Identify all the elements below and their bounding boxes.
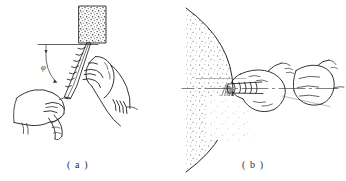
panel-b-caption: ( b ) <box>242 159 264 170</box>
svg-text:φ: φ <box>41 62 46 72</box>
figure-illustration: φ <box>0 0 346 181</box>
grinding-block <box>79 6 106 43</box>
angle-label: φ <box>41 62 46 72</box>
panel-b-group <box>182 8 344 172</box>
panel-a-group: φ <box>14 6 138 140</box>
angle-arc <box>46 51 58 83</box>
panel-a-caption: ( a ) <box>67 159 89 170</box>
rear-fist <box>293 60 344 105</box>
guide-line-lower <box>282 96 330 107</box>
drill-bit <box>65 43 91 99</box>
left-hand <box>14 90 68 140</box>
right-hand <box>83 56 138 126</box>
spark-dust <box>206 96 250 140</box>
